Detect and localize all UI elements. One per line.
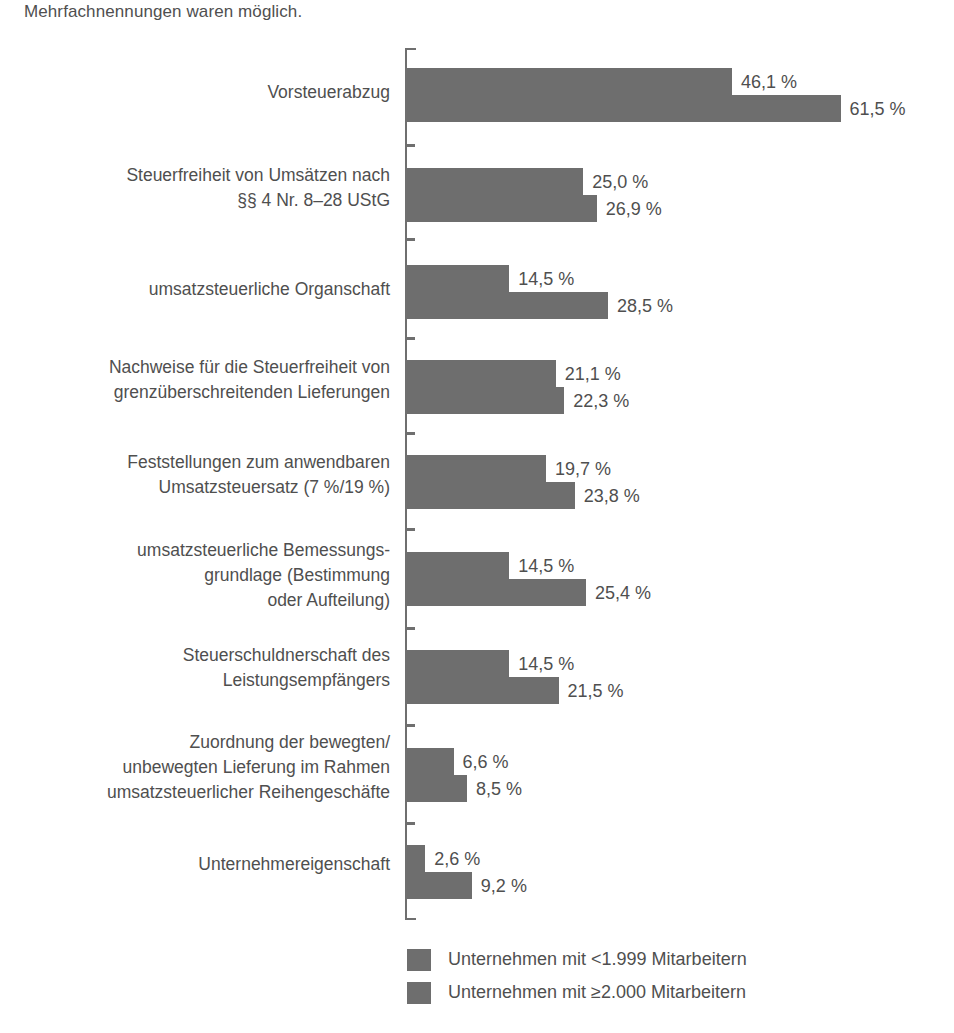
bar-value-label: 22,3 % (564, 390, 629, 411)
bar[interactable] (407, 552, 509, 579)
bar[interactable] (407, 872, 472, 899)
bar[interactable] (407, 650, 509, 677)
legend-item-label: Unternehmen mit ≥2.000 Mitarbeitern (448, 982, 746, 1003)
horizontal-bar-chart: Vorsteuerabzug46,1 %61,5 %Steuerfreiheit… (0, 0, 954, 1033)
bar-value-label: 9,2 % (472, 875, 527, 896)
category-label: Vorsteuerabzug (0, 80, 390, 105)
axis-tick (405, 337, 415, 340)
bar-value-label: 23,8 % (575, 485, 640, 506)
bar[interactable] (407, 360, 556, 387)
bar-value-label: 26,9 % (597, 198, 662, 219)
axis-tick (405, 724, 415, 727)
legend-item[interactable]: Unternehmen mit <1.999 Mitarbeitern (407, 943, 747, 976)
bar-value-label: 2,6 % (425, 848, 480, 869)
axis-tick (405, 528, 415, 531)
bar[interactable] (407, 775, 467, 802)
bar[interactable] (407, 95, 841, 122)
bar-value-label: 61,5 % (841, 98, 906, 119)
bar-value-label: 21,5 % (559, 680, 624, 701)
bar[interactable] (407, 748, 454, 775)
bar[interactable] (407, 68, 732, 95)
axis-cap-bottom (405, 918, 416, 920)
bar[interactable] (407, 265, 509, 292)
legend-item-label: Unternehmen mit <1.999 Mitarbeitern (448, 949, 747, 970)
axis-cap-top (405, 48, 416, 50)
axis-tick (405, 822, 415, 825)
axis-tick (405, 432, 415, 435)
axis-tick (405, 627, 415, 630)
category-label: umsatzsteuerliche Organschaft (0, 277, 390, 302)
category-label: Steuerschuldnerschaft des Leistungsempfä… (0, 643, 390, 693)
axis-tick (405, 144, 415, 147)
bar[interactable] (407, 845, 425, 872)
bar-value-label: 28,5 % (608, 295, 673, 316)
axis-tick (405, 238, 415, 241)
category-label: Steuerfreiheit von Umsätzen nach §§ 4 Nr… (0, 163, 390, 213)
bar-value-label: 14,5 % (509, 555, 574, 576)
bar-value-label: 19,7 % (546, 458, 611, 479)
bar-value-label: 25,0 % (583, 171, 648, 192)
bar[interactable] (407, 482, 575, 509)
legend-swatch-icon (407, 982, 431, 1004)
bar-value-label: 25,4 % (586, 582, 651, 603)
legend-item[interactable]: Unternehmen mit ≥2.000 Mitarbeitern (407, 976, 747, 1009)
category-label: Feststellungen zum anwendbaren Umsatzste… (0, 450, 390, 500)
bar[interactable] (407, 168, 583, 195)
bar[interactable] (407, 292, 608, 319)
category-label: Unternehmereigenschaft (0, 852, 390, 877)
legend-swatch-icon (407, 949, 431, 971)
bar[interactable] (407, 677, 559, 704)
bar[interactable] (407, 195, 597, 222)
bar-value-label: 6,6 % (454, 751, 509, 772)
bar-value-label: 8,5 % (467, 778, 522, 799)
bar[interactable] (407, 455, 546, 482)
category-label: Zuordnung der bewegten/ unbewegten Liefe… (0, 730, 390, 805)
category-label: umsatzsteuerliche Bemessungs- grundlage … (0, 538, 390, 613)
bar[interactable] (407, 387, 564, 414)
bar-value-label: 46,1 % (732, 71, 797, 92)
bar-value-label: 21,1 % (556, 363, 621, 384)
category-label: Nachweise für die Steuerfreiheit von gre… (0, 355, 390, 405)
bar-value-label: 14,5 % (509, 653, 574, 674)
bar[interactable] (407, 579, 586, 606)
bar-value-label: 14,5 % (509, 268, 574, 289)
chart-legend: Unternehmen mit <1.999 Mitarbeitern Unte… (407, 943, 747, 1009)
